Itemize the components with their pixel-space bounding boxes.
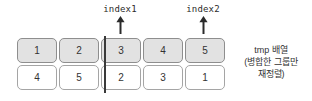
bottom-cell: 3 — [143, 65, 183, 90]
up-arrow-icon — [116, 16, 125, 34]
bottom-cell: 1 — [185, 65, 225, 90]
top-row: 1 2 3 4 5 — [17, 38, 225, 63]
top-cell: 4 — [143, 38, 183, 63]
bottom-row: 4 5 2 3 1 — [17, 65, 225, 90]
bottom-cell: 4 — [17, 65, 57, 90]
up-arrow-icon — [199, 16, 208, 34]
pointer-index2-label: index2 — [163, 4, 243, 15]
pointer-index2: index2 — [163, 4, 243, 34]
pointer-index1: index1 — [80, 4, 160, 34]
caption-line-1: tmp 배열 — [232, 44, 310, 56]
caption-line-2: (병합한 그룹만 — [232, 56, 310, 68]
array-grid: 1 2 3 4 5 4 5 2 3 1 — [17, 38, 225, 90]
top-cell: 2 — [59, 38, 99, 63]
pointer-index1-label: index1 — [80, 4, 160, 15]
tmp-array-diagram: index1 index2 1 2 3 4 5 4 5 2 3 1 — [0, 0, 312, 101]
caption: tmp 배열 (병합한 그룹만 재정렬) — [232, 44, 310, 80]
bottom-cell: 2 — [101, 65, 141, 90]
bottom-cell: 5 — [59, 65, 99, 90]
top-cell: 1 — [17, 38, 57, 63]
caption-line-3: 재정렬) — [232, 68, 310, 80]
top-cell: 3 — [101, 38, 141, 63]
split-divider — [104, 36, 106, 93]
top-cell: 5 — [185, 38, 225, 63]
